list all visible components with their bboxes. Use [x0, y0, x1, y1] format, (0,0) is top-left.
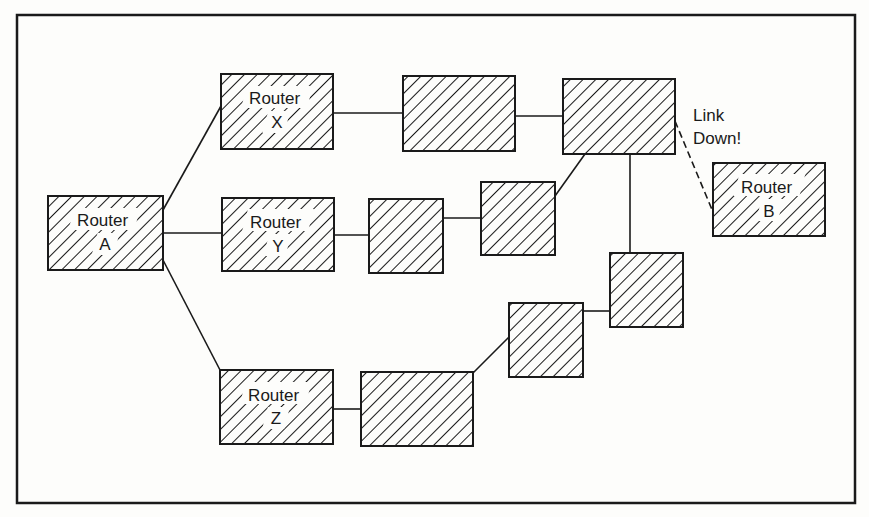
- link-y3-hub: [555, 154, 585, 196]
- node-z2-box[interactable]: [361, 372, 473, 446]
- network-diagram: Router A Router X Router Y Router Z Rout…: [0, 0, 869, 517]
- node-z4-box[interactable]: [610, 253, 683, 327]
- node-y3-box[interactable]: [481, 182, 555, 255]
- node-y2-box[interactable]: [369, 199, 443, 273]
- link-a-z: [163, 260, 220, 370]
- link-z2-z3: [473, 337, 509, 373]
- link-down-annotation: Link Down!: [693, 106, 741, 148]
- link-a-x: [163, 106, 221, 210]
- node-hub-box[interactable]: [563, 79, 675, 154]
- node-x2-box[interactable]: [403, 76, 515, 151]
- node-z3-box[interactable]: [509, 303, 583, 377]
